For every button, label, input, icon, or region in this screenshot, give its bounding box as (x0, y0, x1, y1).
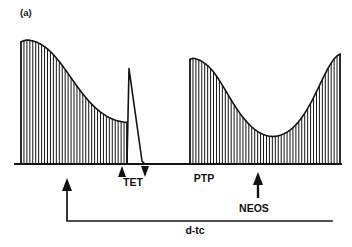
twitch-bars-layer (21, 40, 340, 164)
ptp-marker-group: PTP (194, 172, 214, 184)
dtc-timeline (67, 186, 332, 221)
twitch-train-twitch-burst-1-fade (21, 40, 127, 164)
dtc-label: d-tc (185, 224, 204, 236)
neos-label: NEOS (239, 202, 269, 214)
tetanic-spike-layer (127, 69, 146, 165)
twitch-envelope-layer (21, 40, 340, 164)
dtc-marker-group: d-tc (62, 178, 332, 236)
chart-plot-area (15, 40, 341, 164)
ptp-label: PTP (194, 172, 214, 184)
tet-marker-group: TET (118, 166, 149, 188)
envelope-twitch-burst-2-ptp-and-recovery (190, 54, 340, 136)
panel-label: (a) (20, 7, 32, 18)
neos-arrowhead-icon (253, 172, 263, 185)
neos-marker-group: NEOS (239, 172, 269, 214)
tetanic-spike-trace (127, 69, 146, 165)
tet-label: TET (123, 176, 143, 188)
dtc-arrowhead-icon (62, 178, 72, 191)
figure-panel: TET PTP NEOS d-tc (a) (0, 0, 352, 247)
twitch-recording-chart: TET PTP NEOS d-tc (a) (0, 0, 352, 247)
